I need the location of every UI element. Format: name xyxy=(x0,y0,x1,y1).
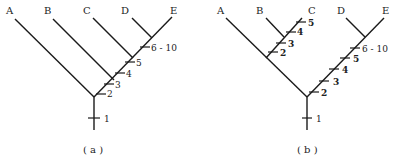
branch-b xyxy=(53,19,114,80)
tick-label-3: 3 xyxy=(115,80,121,90)
tick-label-2: 2 xyxy=(107,89,113,99)
branch-d xyxy=(132,18,152,38)
taxon-a-label: A xyxy=(216,5,225,16)
tick-label-4: 4 xyxy=(126,69,132,79)
left-tick-label-4: 4 xyxy=(297,27,303,37)
right-tick-label-3: 3 xyxy=(333,77,339,87)
tick-label-1: 1 xyxy=(316,114,322,124)
caption-a: ( a ) xyxy=(83,144,103,155)
right-tick-label-5: 5 xyxy=(353,54,359,64)
taxon-a-label: A xyxy=(5,5,14,16)
tick-label-1: 1 xyxy=(104,114,110,124)
caption-b: ( b ) xyxy=(297,144,318,155)
taxon-c-label: C xyxy=(83,5,91,16)
panel-a: A B C D E 1 2 3 4 5 6 - 10 ( a ) xyxy=(5,5,177,155)
branch-b xyxy=(266,18,284,37)
cladogram-figure: A B C D E 1 2 3 4 5 6 - 10 ( a ) A B C D… xyxy=(0,0,394,159)
taxon-e-label: E xyxy=(170,5,177,16)
panel-b: A B C D E 1 2 3 4 5 2 3 4 5 6 - 10 ( b ) xyxy=(216,5,389,155)
taxon-b-label: B xyxy=(44,5,51,16)
right-tick-label-6-10: 6 - 10 xyxy=(362,44,388,54)
right-tick-label-4: 4 xyxy=(342,65,348,75)
left-tick-label-5: 5 xyxy=(308,18,314,28)
taxon-d-label: D xyxy=(337,5,345,16)
spine-branch-e xyxy=(94,17,172,97)
left-tick-label-3: 3 xyxy=(288,39,294,49)
taxon-e-label: E xyxy=(382,5,389,16)
branch-c xyxy=(93,18,133,58)
taxon-d-label: D xyxy=(121,5,129,16)
taxon-b-label: B xyxy=(256,5,263,16)
taxon-c-label: C xyxy=(308,5,316,16)
branch-d xyxy=(346,18,365,37)
tick-label-6-10: 6 - 10 xyxy=(151,43,177,53)
left-tick-label-2: 2 xyxy=(280,48,286,58)
right-tick-label-2: 2 xyxy=(321,88,327,98)
tick-label-5: 5 xyxy=(136,58,142,68)
branch-a xyxy=(15,19,94,97)
